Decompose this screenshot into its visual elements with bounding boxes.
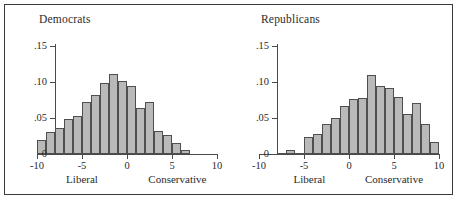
- figure-canvas: Democrats 0.05.10.15 -10-50510 Liberal C…: [0, 0, 461, 203]
- x-tick-label: 0: [346, 160, 351, 171]
- x-tick-mark: [439, 154, 440, 159]
- y-tick-label: .10: [11, 77, 47, 88]
- x-tick-mark: [82, 154, 83, 159]
- x-tick-label: 5: [391, 160, 396, 171]
- y-tick: .15: [11, 46, 56, 47]
- y-tick-mark: [272, 154, 278, 155]
- histogram-bar: [82, 102, 91, 154]
- x-tick-label: -5: [78, 160, 87, 171]
- histogram-bar: [118, 81, 127, 154]
- histogram-bar: [349, 99, 358, 154]
- x-tick-mark: [217, 154, 218, 159]
- plot-area-democrats: 0.05.10.15 -10-50510 Liberal Conservativ…: [11, 5, 236, 196]
- histogram-bar: [322, 124, 331, 154]
- histogram-bar: [412, 103, 421, 154]
- x-tick-mark: [304, 154, 305, 159]
- x-tick-mark: [394, 154, 395, 159]
- y-tick-label: .10: [233, 77, 269, 88]
- anchor-label-liberal: Liberal: [294, 173, 326, 185]
- y-tick-mark: [50, 154, 56, 155]
- x-tick-label: -10: [252, 160, 266, 171]
- histogram-bar: [331, 118, 340, 154]
- histogram-bar: [403, 114, 412, 154]
- y-tick: 0: [233, 154, 278, 155]
- plot-area-republicans: 0.05.10.15 -10-50510 Liberal Conservativ…: [233, 5, 458, 196]
- x-tick-mark: [127, 154, 128, 159]
- histogram-bar: [313, 134, 322, 154]
- y-tick-label: 0: [233, 149, 269, 160]
- histogram-bar: [73, 116, 82, 154]
- y-tick: .05: [11, 118, 56, 119]
- y-tick-label: .15: [233, 41, 269, 52]
- histogram-bar: [145, 102, 154, 154]
- y-tick: 0: [11, 154, 56, 155]
- histogram-bar: [286, 150, 295, 154]
- y-tick-mark: [50, 82, 56, 83]
- histogram-bar: [421, 124, 430, 154]
- histogram-bar: [136, 108, 145, 154]
- histogram-bar: [154, 131, 163, 154]
- y-tick-mark: [272, 82, 278, 83]
- x-tick-label: 0: [124, 160, 129, 171]
- figure-frame: Democrats 0.05.10.15 -10-50510 Liberal C…: [4, 4, 453, 195]
- x-tick-label: 10: [212, 160, 223, 171]
- y-tick: .10: [11, 82, 56, 83]
- histogram-bar: [46, 132, 55, 154]
- histogram-bar: [163, 135, 172, 154]
- anchor-label-conservative: Conservative: [365, 173, 423, 185]
- y-tick: .15: [233, 46, 278, 47]
- x-tick-mark: [349, 154, 350, 159]
- x-tick-label: 10: [434, 160, 445, 171]
- histogram-bar: [304, 137, 313, 154]
- histogram-bar: [295, 153, 304, 155]
- x-tick-mark: [172, 154, 173, 159]
- histogram-bar: [127, 86, 136, 154]
- panel-democrats: Democrats 0.05.10.15 -10-50510 Liberal C…: [11, 5, 236, 196]
- histogram-bar: [109, 74, 118, 154]
- x-tick-label: 5: [169, 160, 174, 171]
- histogram-bar: [91, 95, 100, 154]
- anchor-label-conservative: Conservative: [148, 173, 206, 185]
- histogram-bar: [394, 97, 403, 154]
- y-tick-mark: [272, 46, 278, 47]
- histogram-bar: [430, 142, 439, 154]
- histogram-bar: [181, 150, 190, 154]
- histogram-bar: [277, 153, 286, 155]
- y-tick: .05: [233, 118, 278, 119]
- y-tick-label: 0: [11, 149, 47, 160]
- histogram-bar: [367, 75, 376, 154]
- histogram-bar: [172, 143, 181, 154]
- y-tick-label: .15: [11, 41, 47, 52]
- y-tick-label: .05: [233, 113, 269, 124]
- y-tick-mark: [272, 118, 278, 119]
- x-tick-label: -5: [300, 160, 309, 171]
- histogram-bar: [100, 83, 109, 154]
- histogram-bar: [340, 106, 349, 154]
- y-tick-label: .05: [11, 113, 47, 124]
- histogram-bar: [358, 98, 367, 154]
- histogram-bar: [385, 88, 394, 154]
- panel-republicans: Republicans 0.05.10.15 -10-50510 Liberal…: [233, 5, 458, 196]
- y-tick-mark: [50, 46, 56, 47]
- x-tick-label: -10: [30, 160, 44, 171]
- x-tick-mark: [37, 154, 38, 159]
- y-tick: .10: [233, 82, 278, 83]
- y-tick-mark: [50, 118, 56, 119]
- x-tick-mark: [259, 154, 260, 159]
- anchor-label-liberal: Liberal: [66, 173, 98, 185]
- histogram-bar: [64, 119, 73, 154]
- histogram-bar: [55, 128, 64, 154]
- histogram-bar: [376, 86, 385, 154]
